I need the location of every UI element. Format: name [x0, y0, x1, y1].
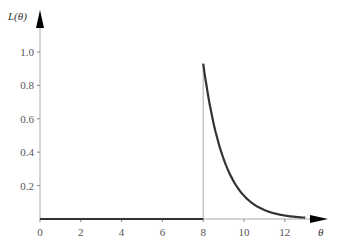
likelihood-chart: 0.20.40.60.81.0024681012L(θ)θ: [0, 0, 337, 249]
y-tick-label: 0.4: [20, 146, 34, 158]
x-tick-label: 4: [119, 226, 125, 238]
x-tick-label: 0: [37, 226, 43, 238]
x-axis-arrow-icon: [310, 215, 328, 223]
y-tick-label: 0.2: [20, 180, 34, 192]
x-tick-label: 6: [160, 226, 166, 238]
x-tick-label: 10: [239, 226, 251, 238]
x-tick-label: 12: [279, 226, 290, 238]
x-tick-label: 2: [78, 226, 84, 238]
series-curve: [203, 64, 305, 218]
y-axis-arrow-icon: [36, 10, 44, 28]
x-axis-label: θ: [318, 226, 324, 238]
y-tick-label: 0.8: [20, 79, 34, 91]
x-tick-label: 8: [200, 226, 206, 238]
y-tick-label: 0.6: [20, 113, 34, 125]
y-axis-label: L(θ): [7, 10, 27, 23]
y-tick-label: 1.0: [20, 46, 34, 58]
